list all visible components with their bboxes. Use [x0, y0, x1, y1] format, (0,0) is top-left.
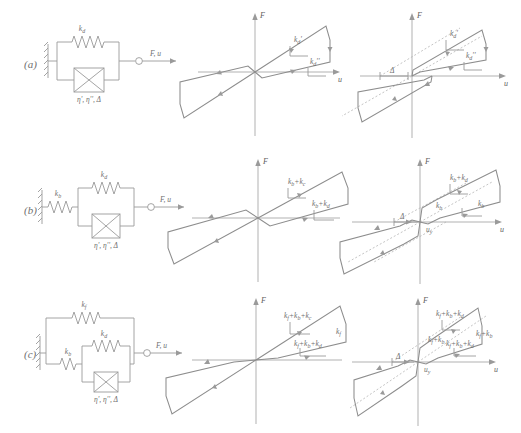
slope-label-fbd2-c-right: kf+kb+kd — [446, 339, 475, 349]
slope-marks-c-right: kf+kb+kd kf+kb+kd kf+kb kf+kb — [428, 309, 492, 356]
yield-point-label-c: uy — [424, 365, 431, 375]
slope-label-fb-c-right-1: kf+kb — [476, 329, 492, 339]
axes-c-mid: F — [192, 296, 342, 424]
spring-kb-b: kb — [42, 189, 78, 213]
x-axis-label-b-right: u — [500, 225, 504, 234]
output-node-c: F, u — [144, 341, 182, 356]
wall-anchor-b — [38, 188, 42, 224]
slope-label-kf-c-mid: kf — [336, 327, 342, 337]
spring-kb-label-c: kb — [65, 347, 71, 357]
outer-parallel-c — [40, 318, 144, 364]
slope-label-bd-b-mid: kb+kd — [312, 199, 331, 209]
spring-kb-label-b: kb — [55, 189, 61, 199]
dashpot-label-b: η', η'', Δ — [94, 241, 119, 250]
wall-anchor-a — [44, 42, 48, 78]
slope-label-fb-c-right-2: kf+kb — [428, 335, 444, 345]
output-label-a: F, u — [149, 49, 161, 58]
x-axis-label-a-mid: u — [338, 75, 342, 84]
spring-kd-c: kd — [88, 329, 124, 352]
gap-label-a-right: Δ — [389, 66, 395, 75]
figure-row-b: (b) kb — [0, 146, 521, 290]
spring-kd-label-c: kd — [101, 329, 108, 339]
hysteresis-a-right: F u Δ — [350, 0, 521, 144]
yield-point-label-b: uy — [426, 225, 433, 235]
slope-label-storage-a-right: kd' — [450, 29, 458, 39]
yield-label-c-right: uy — [424, 365, 431, 375]
x-axis-label-c-right: u — [494, 365, 498, 374]
slope-label-fbd-c-right: kf+kb+kd — [436, 309, 465, 319]
axes-c-right: F u — [352, 296, 498, 426]
row-label-b: (b) — [24, 204, 37, 216]
row-label-c: (c) — [24, 348, 36, 360]
y-axis-label-c-mid: F — [260, 296, 266, 305]
output-label-b: F, u — [159, 195, 171, 204]
slope-label-fbd-c-mid: kf+kb+kd — [294, 339, 323, 349]
hysteresis-c-right: F u Δ uy — [350, 290, 521, 433]
direction-arrows-a-mid — [216, 47, 333, 96]
dashpot-a: η', η'', Δ — [66, 68, 110, 104]
model-diagram-b: (b) kb — [0, 146, 190, 290]
gap-label-c-right: Δ — [395, 352, 401, 361]
spring-kf-label-c: kf — [81, 300, 87, 310]
axes-a-right: F u — [360, 11, 508, 138]
slope-label-storage-a-mid: kd' — [294, 35, 302, 45]
hysteresis-a-mid: F u kd' kd'' — [190, 0, 350, 144]
axes-b-right: F u — [352, 157, 504, 284]
figure-root: (a) — [0, 0, 521, 433]
output-label-c: F, u — [155, 341, 167, 350]
figure-row-c: (c) — [0, 290, 521, 433]
parallel-branch-a — [48, 42, 135, 80]
wall-anchor-c — [36, 334, 40, 370]
dashpot-c: η', η'', Δ — [88, 372, 124, 404]
spring-kd-label-a: kd — [79, 24, 86, 34]
gap-marker-b-right: Δ — [394, 212, 418, 226]
slope-label-loss-a-mid: kd'' — [310, 57, 320, 67]
model-diagram-c: (c) — [0, 290, 190, 433]
slope-label-loss-a-right: kd'' — [466, 51, 476, 61]
model-diagram-a: (a) — [0, 0, 190, 144]
y-axis-label-c-right: F — [422, 296, 428, 305]
spring-kd-label-b: kd — [101, 170, 108, 180]
slope-marks-b-mid: kb+kc kb+kd — [288, 177, 334, 220]
slope-label-kb-b-right-2: kb — [436, 201, 442, 211]
y-axis-label-a-right: F — [416, 11, 422, 20]
x-axis-label-a-right: u — [504, 79, 508, 88]
figure-row-a: (a) — [0, 0, 521, 144]
dashpot-label-c: η', η'', Δ — [94, 395, 119, 404]
spring-kd-a: kd — [66, 24, 110, 48]
slope-label-bd-b-right: kb+kd — [450, 173, 469, 183]
y-axis-label-b-mid: F — [262, 157, 268, 166]
y-axis-label-b-right: F — [424, 157, 430, 166]
inner-parallel-c — [82, 346, 134, 382]
slope-label-fbc-c-mid: kf+kb+kc — [284, 311, 312, 321]
gap-marker-a-right: Δ — [380, 66, 408, 80]
yield-label-b-right: uy — [426, 225, 433, 235]
dashpot-b: η', η'', Δ — [86, 214, 126, 250]
slope-marks-a-right: kd' kd'' — [446, 29, 482, 70]
spring-kd-b: kd — [86, 170, 126, 194]
hysteresis-b-mid: F kb+kc kb+kd — [190, 146, 350, 290]
hysteresis-b-right: F u Δ — [350, 146, 521, 290]
y-axis-label-a-mid: F — [259, 11, 265, 20]
output-node-b: F, u — [148, 195, 184, 210]
output-node-a: F, u — [136, 49, 176, 64]
slope-label-kb-b-right-1: kb — [478, 199, 484, 209]
row-label-a: (a) — [24, 58, 37, 70]
gap-label-b-right: Δ — [399, 212, 405, 221]
slope-label-bc-b-mid: kb+kc — [288, 177, 306, 187]
spring-kf-c: kf — [66, 300, 106, 324]
dashpot-label-a: η', η'', Δ — [77, 95, 102, 104]
spring-kb-c: kb — [56, 347, 82, 370]
hysteresis-c-mid: F kf+kb+kc kf+kb+kd kf — [190, 290, 350, 433]
